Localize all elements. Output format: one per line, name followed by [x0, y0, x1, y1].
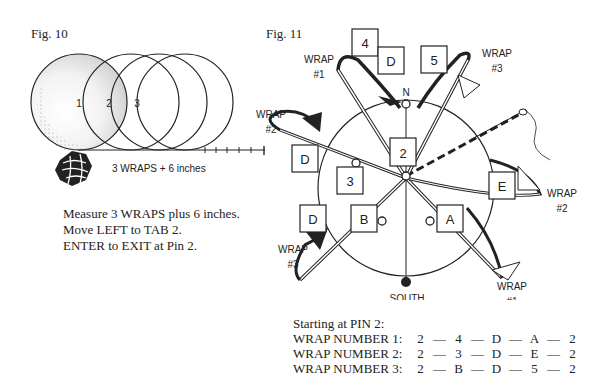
svg-text:3: 3: [346, 174, 353, 189]
svg-text:#2: #2: [556, 203, 568, 214]
svg-text:WRAP: WRAP: [278, 244, 308, 255]
svg-text:4: 4: [361, 36, 368, 51]
yarn-ball-icon: [55, 151, 92, 186]
box-5: 5: [421, 46, 447, 73]
instruction-line: Move LEFT to TAB 2.: [63, 222, 240, 238]
svg-text:WRAP: WRAP: [497, 281, 527, 292]
pin-south: [401, 277, 411, 287]
svg-text:B: B: [360, 212, 369, 227]
svg-text:#2: #2: [265, 124, 277, 135]
box-e: E: [489, 172, 515, 199]
instruction-line: ENTER to EXIT at Pin 2.: [63, 238, 240, 254]
box-left-d-upper: D: [292, 145, 318, 172]
box-b: B: [351, 205, 377, 232]
box-3: 3: [337, 167, 363, 194]
wrap-sequence: Starting at PIN 2: WRAP NUMBER 1: 2 — 4 …: [293, 316, 582, 376]
wrap-loop-4: [137, 54, 233, 150]
wrap2-right-label: WRAP #2: [547, 188, 577, 214]
box-left-d-lower: D: [300, 205, 326, 232]
measure-ruler: [78, 146, 265, 155]
svg-text:#1: #1: [313, 69, 325, 80]
measure-label: 3 WRAPS + 6 inches: [112, 163, 206, 174]
north-label: N: [402, 87, 409, 98]
wrap1-top-label: WRAP #1: [304, 54, 334, 80]
pin-north: [402, 100, 410, 108]
box-center-2: 2: [390, 138, 416, 166]
svg-text:#3: #3: [491, 63, 503, 74]
circle-label-2: 2: [106, 98, 112, 109]
wrap3-loop: [296, 53, 480, 280]
svg-text:D: D: [386, 54, 395, 69]
svg-text:#3: #3: [287, 259, 299, 270]
circle-label-3: 3: [134, 98, 140, 109]
svg-text:WRAP: WRAP: [256, 109, 286, 120]
needle-icon: [406, 109, 550, 176]
instruction-line: Measure 3 WRAPS plus 6 inches.: [63, 206, 240, 222]
wrap1-bottom-label: WRAP #1: [497, 281, 527, 300]
svg-text:D: D: [308, 212, 317, 227]
svg-text:#1: #1: [506, 296, 518, 300]
sequence-row: WRAP NUMBER 1: 2 — 4 — D — A — 2: [293, 331, 582, 346]
fig10-instructions: Measure 3 WRAPS plus 6 inches. Move LEFT…: [63, 206, 240, 254]
box-top-d: D: [378, 47, 404, 74]
sequence-heading: Starting at PIN 2:: [293, 316, 582, 331]
box-a: A: [437, 205, 463, 232]
fig11-diagram: 2 4 D 5 D 3 D B A E N SOUTH WRAP #1: [240, 0, 608, 300]
wrap3-bottom-label: WRAP #3: [278, 244, 308, 270]
svg-text:D: D: [300, 152, 309, 167]
circle-label-1: 1: [76, 98, 82, 109]
svg-text:2: 2: [399, 146, 406, 161]
pin-center: [402, 172, 410, 180]
svg-text:5: 5: [430, 53, 437, 68]
south-label: SOUTH: [390, 293, 425, 300]
sequence-row: WRAP NUMBER 3: 2 — B — D — 5 — 2: [293, 361, 582, 376]
svg-text:E: E: [498, 179, 507, 194]
pin-b: [378, 217, 386, 225]
svg-text:WRAP: WRAP: [304, 54, 334, 65]
sequence-row: WRAP NUMBER 2: 2 — 3 — D — E — 2: [293, 346, 582, 361]
box-4: 4: [352, 29, 378, 56]
wrap3-top-label: WRAP #3: [482, 48, 512, 74]
pin-left: [352, 159, 360, 167]
svg-text:WRAP: WRAP: [547, 188, 577, 199]
fig10-diagram: 1 2 3 3 WRAPS + 6 inches: [0, 0, 280, 200]
svg-text:WRAP: WRAP: [482, 48, 512, 59]
svg-text:A: A: [446, 212, 455, 227]
pin-a: [426, 217, 434, 225]
